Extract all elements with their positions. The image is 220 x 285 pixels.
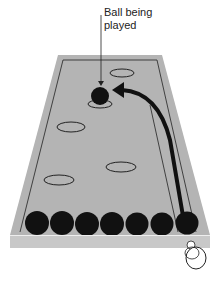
bagatelle-board-diagram [0, 0, 220, 285]
played-ball [91, 87, 109, 105]
label-line-1: Ball being [104, 6, 152, 19]
board-front-rim [10, 235, 210, 248]
label-line-2: played [104, 19, 152, 32]
ball-being-played-label: Ball being played [104, 6, 152, 32]
